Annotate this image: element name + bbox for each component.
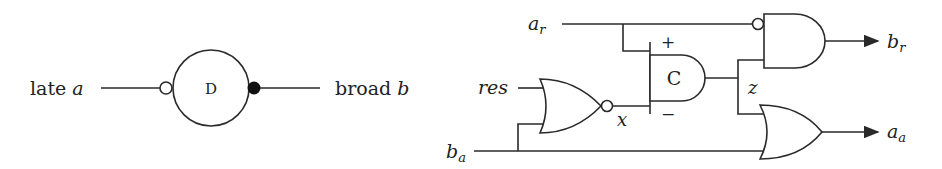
input-label-res: res [478,76,508,98]
nor-bubble-icon [602,101,613,112]
c-minus-label: − [661,104,675,124]
output-label-b-r: br [887,30,906,55]
and-gate-icon [764,14,825,68]
c-element-label: C [667,67,682,89]
or-gate-icon [760,105,822,159]
circuit-figure: late a D broad b ar br C + − z res [0,0,942,169]
d-element-label: D [205,80,217,98]
input-label-a-r: ar [528,12,546,37]
node-label-x: x [617,109,627,130]
output-label-a-a: aa [887,120,906,145]
input-label-late-a: late a [30,77,84,99]
nor-gate-icon [540,79,601,133]
node-label-z: z [747,77,758,98]
inverter-bubble-icon [753,19,764,30]
c-plus-label: + [661,32,675,52]
a-r-branch-to-c [623,24,650,51]
open-bubble-icon [160,82,172,94]
output-label-broad-b: broad b [335,77,409,99]
handshake-circuit: ar br C + − z res x ba aa [446,12,906,165]
input-label-b-a: ba [446,140,466,165]
d-element-diagram: late a D broad b [30,50,409,126]
filled-dot-icon [248,82,261,95]
